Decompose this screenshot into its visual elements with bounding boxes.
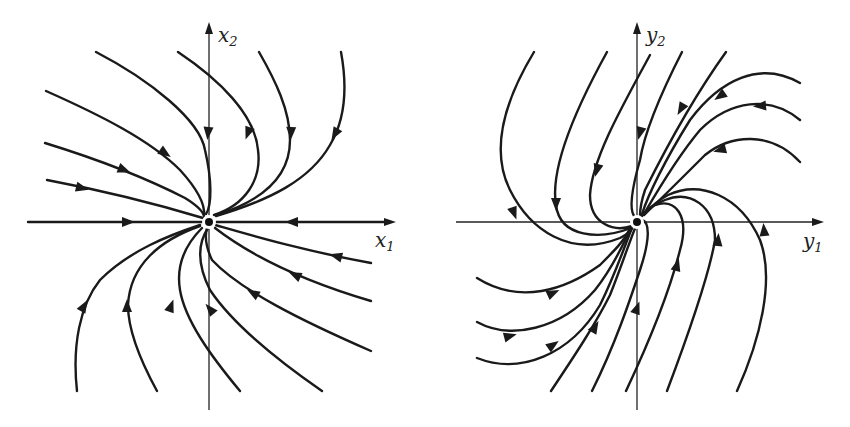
direction-arrow-icon: [77, 297, 92, 313]
vertical-axis-label: x2: [218, 23, 238, 49]
trajectory: [122, 226, 200, 391]
trajectory: [501, 52, 633, 245]
direction-arrow-icon: [758, 223, 769, 237]
trajectory: [76, 225, 200, 391]
trajectory-curve: [555, 52, 631, 235]
trajectory: [45, 143, 204, 216]
equilibrium-point: [633, 218, 641, 226]
trajectory: [216, 217, 390, 227]
left-phase-portrait: x1x2: [28, 22, 396, 410]
direction-arrow-icon: [122, 217, 135, 227]
direction-arrow-icon: [507, 206, 521, 222]
trajectory-curve: [215, 228, 371, 301]
direction-arrow-icon: [202, 300, 218, 316]
trajectory-curve: [200, 228, 322, 391]
horizontal-axis-label: y1: [802, 229, 823, 255]
horizontal-axis-arrow-icon: [812, 218, 824, 226]
direction-arrow-icon: [286, 127, 296, 140]
vertical-axis-arrow-icon: [633, 22, 641, 34]
trajectory-curve: [47, 180, 203, 218]
horizontal-axis-label: x1: [375, 228, 395, 254]
direction-arrow-icon: [122, 299, 132, 312]
trajectory: [640, 52, 726, 216]
trajectory-curve: [501, 52, 633, 245]
trajectory-curve: [644, 189, 766, 391]
trajectory: [28, 217, 203, 227]
trajectory: [216, 52, 345, 216]
trajectory-curve: [96, 52, 210, 214]
trajectory: [178, 52, 259, 215]
direction-arrow-icon: [202, 127, 213, 141]
trajectory: [206, 228, 371, 351]
trajectory: [164, 228, 240, 391]
direction-arrow-icon: [551, 198, 561, 211]
trajectory: [216, 52, 296, 215]
trajectory-curve: [76, 225, 200, 391]
direction-arrow-icon: [287, 268, 303, 283]
equilibrium-point: [205, 218, 213, 226]
trajectory-curve: [216, 52, 345, 216]
trajectory: [644, 189, 770, 391]
direction-arrow-icon: [164, 298, 178, 314]
direction-arrow-icon: [157, 145, 173, 161]
trajectory: [200, 228, 322, 391]
right-phase-portrait: y1y2: [456, 22, 824, 410]
trajectory-curve: [206, 228, 371, 351]
trajectory: [215, 228, 371, 301]
phase-portrait-figure: x1x2 y1y2: [0, 0, 850, 427]
direction-arrow-icon: [117, 163, 133, 177]
direction-arrow-icon: [753, 100, 767, 111]
direction-arrow-icon: [327, 126, 342, 142]
trajectory-curve: [45, 143, 204, 216]
vertical-axis-arrow-icon: [205, 22, 213, 34]
vertical-axis-label: y2: [645, 23, 666, 49]
direction-arrow-icon: [285, 217, 298, 227]
trajectory: [47, 180, 203, 218]
trajectory-curve: [642, 197, 715, 391]
direction-arrow-icon: [545, 337, 561, 353]
trajectory-curve: [640, 52, 726, 216]
